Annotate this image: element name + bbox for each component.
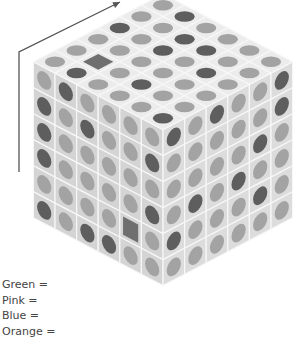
legend-pink: Pink = bbox=[2, 293, 55, 309]
color-legend: Green = Pink = Blue = Orange = bbox=[2, 277, 55, 339]
legend-blue: Blue = bbox=[2, 308, 55, 324]
legend-orange: Orange = bbox=[2, 324, 55, 339]
legend-green: Green = bbox=[2, 277, 55, 293]
